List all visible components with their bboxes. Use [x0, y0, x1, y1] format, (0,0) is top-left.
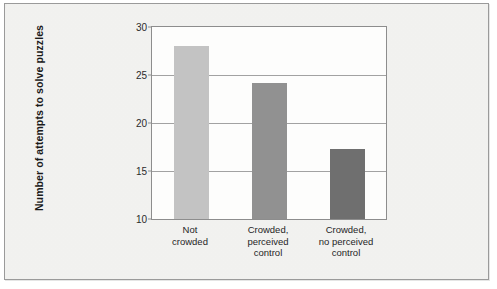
plot-area: 1015202530	[151, 26, 387, 220]
bar-1	[252, 83, 287, 219]
x-axis-label-line: Crowded,	[298, 224, 394, 236]
y-tick-mark	[148, 123, 152, 124]
y-tick-label: 10	[136, 214, 147, 225]
y-tick-label: 15	[136, 166, 147, 177]
x-axis-label-line: no perceived	[298, 236, 394, 248]
bar-chart: Number of attempts to solve puzzles 1015…	[5, 4, 490, 281]
bar-0	[174, 46, 209, 219]
y-tick-mark	[148, 171, 152, 172]
bar-2	[330, 149, 365, 219]
y-tick-label: 20	[136, 118, 147, 129]
y-tick-mark	[148, 219, 152, 220]
y-axis-title: Number of attempts to solve puzzles	[33, 18, 45, 218]
figure-frame: Number of attempts to solve puzzles 1015…	[4, 3, 489, 280]
x-axis-label: Crowded,no perceivedcontrol	[298, 224, 394, 259]
y-tick-label: 30	[136, 22, 147, 33]
y-tick-label: 25	[136, 70, 147, 81]
y-tick-mark	[148, 75, 152, 76]
x-axis-label-line: control	[298, 247, 394, 259]
y-tick-mark	[148, 27, 152, 28]
